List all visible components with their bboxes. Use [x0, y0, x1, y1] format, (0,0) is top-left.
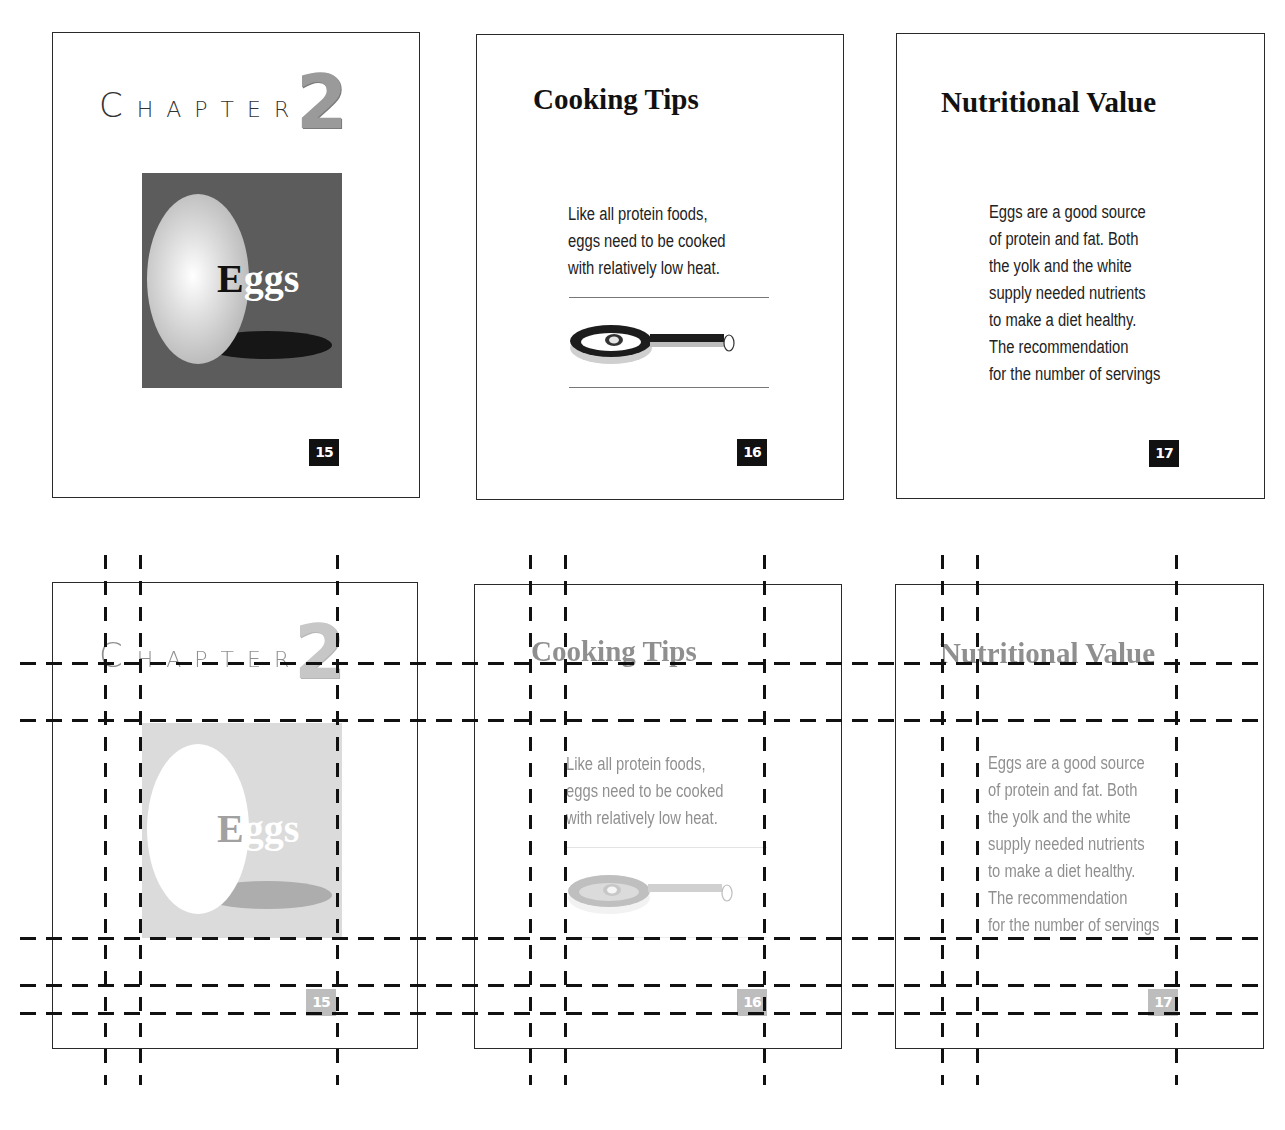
vertical-guide: [564, 555, 567, 1085]
chapter-label-rest: HAPTER: [137, 647, 302, 672]
vertical-guide: [139, 555, 142, 1085]
horizontal-guide: [20, 937, 1268, 940]
page-title: Nutritional Value: [941, 86, 1156, 119]
body-line: to make a diet healthy.: [989, 307, 1160, 334]
vertical-guide: [336, 555, 339, 1085]
vertical-guide: [763, 555, 766, 1085]
divider-rule: [567, 847, 767, 848]
horizontal-guide: [20, 719, 1268, 722]
body-text: Eggs are a good source of protein and fa…: [989, 199, 1160, 388]
body-line: of protein and fat. Both: [988, 777, 1159, 804]
eggs-cover-image: Eggs: [142, 173, 342, 388]
page-title: Cooking Tips: [533, 83, 699, 116]
body-line: to make a diet healthy.: [988, 858, 1159, 885]
chapter-label-initial: C: [99, 85, 137, 125]
eggs-cover-image: Eggs: [142, 723, 342, 938]
body-line: Like all protein foods,: [566, 751, 724, 778]
vertical-guide: [941, 555, 944, 1085]
frying-pan-icon: [570, 321, 740, 381]
page-16: Cooking Tips Like all protein foods, egg…: [476, 34, 844, 500]
body-line: with relatively low heat.: [566, 805, 724, 832]
body-line: of protein and fat. Both: [989, 226, 1160, 253]
chapter-label: CHAPTER: [99, 635, 302, 675]
body-line: The recommendation: [989, 334, 1160, 361]
chapter-label-rest: HAPTER: [137, 97, 302, 122]
body-line: Eggs are a good source: [989, 199, 1160, 226]
divider-rule: [569, 387, 769, 388]
eggs-title: Eggs: [217, 809, 299, 849]
body-text: Like all protein foods, eggs need to be …: [566, 751, 724, 832]
vertical-guide: [976, 555, 979, 1085]
divider-rule: [569, 297, 769, 298]
body-line: eggs need to be cooked: [568, 228, 726, 255]
body-line: the yolk and the white: [989, 253, 1160, 280]
body-line: for the number of servings: [989, 361, 1160, 388]
body-line: The recommendation: [988, 885, 1159, 912]
body-line: Like all protein foods,: [568, 201, 726, 228]
page-number-badge: 15: [309, 439, 339, 466]
horizontal-guide: [20, 984, 1268, 987]
page-number-badge: 17: [1149, 440, 1179, 467]
horizontal-guide: [20, 1012, 1268, 1015]
page-17-grid: Nutritional Value Eggs are a good source…: [895, 584, 1264, 1049]
body-line: for the number of servings: [988, 912, 1159, 939]
body-line: Eggs are a good source: [988, 750, 1159, 777]
page-number-badge: 16: [737, 439, 767, 466]
body-line: supply needed nutrients: [988, 831, 1159, 858]
body-text: Like all protein foods, eggs need to be …: [568, 201, 726, 282]
eggs-title-initial: E: [217, 806, 244, 851]
vertical-guide: [1175, 555, 1178, 1085]
body-text: Eggs are a good source of protein and fa…: [988, 750, 1159, 939]
body-line: supply needed nutrients: [989, 280, 1160, 307]
chapter-number: 2: [296, 65, 348, 139]
eggs-title-initial: E: [217, 256, 244, 301]
page-title: Nutritional Value: [940, 637, 1155, 670]
eggs-title: Eggs: [217, 259, 299, 299]
body-line: the yolk and the white: [988, 804, 1159, 831]
body-line: with relatively low heat.: [568, 255, 726, 282]
vertical-guide: [529, 555, 532, 1085]
frying-pan-icon: [568, 871, 738, 931]
vertical-guide: [104, 555, 107, 1085]
body-line: eggs need to be cooked: [566, 778, 724, 805]
page-17: Nutritional Value Eggs are a good source…: [896, 33, 1265, 499]
horizontal-guide: [20, 662, 1268, 665]
eggs-title-rest: ggs: [244, 256, 300, 301]
chapter-label: CHAPTER: [99, 85, 302, 125]
page-15: CHAPTER 2 Eggs 15: [52, 32, 420, 498]
eggs-title-rest: ggs: [244, 806, 300, 851]
